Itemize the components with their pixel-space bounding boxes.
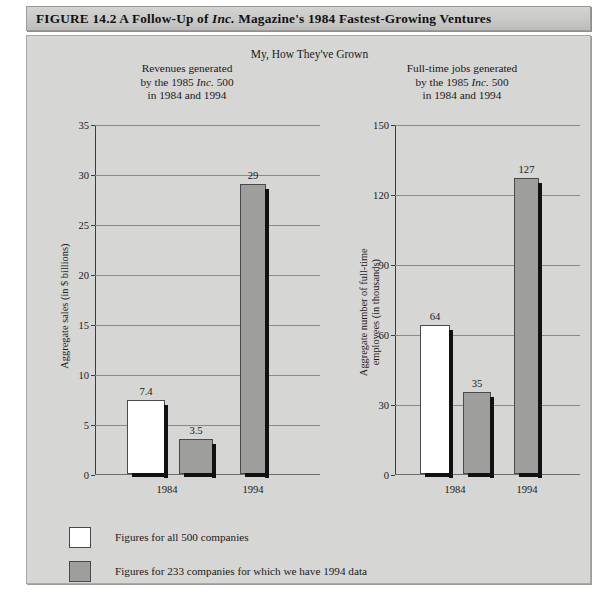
y-tick-label: 0	[84, 470, 89, 481]
chart-revenues-title-line3: in 1984 and 1994	[27, 89, 347, 103]
chart-jobs-y-axis-label: Aggregate number of full-time employees …	[358, 197, 382, 427]
y-tick-label: 30	[378, 400, 389, 411]
chart-jobs-y-axis	[395, 125, 396, 475]
bar-value: 7.4	[139, 386, 152, 397]
bar-1984-233companies: 3.5	[179, 439, 213, 474]
chart-jobs-plot-area: 150 120 90 60 30 0 64 35 127 1984 1994	[395, 125, 580, 475]
bar-value: 29	[248, 170, 259, 181]
gridline: 15	[95, 325, 320, 326]
chart-jobs-title-line2: by the 1985 Inc. 500	[332, 76, 592, 90]
y-tick-label: 15	[78, 320, 89, 331]
y-tick-label: 20	[78, 270, 89, 281]
chart-revenues: Revenues generated by the 1985 Inc. 500 …	[27, 36, 347, 585]
y-tick-label: 0	[384, 470, 389, 481]
chart-jobs-y-axis-label-line2: employees (in thousands)	[370, 197, 382, 427]
legend-label: Figures for all 500 companies	[115, 531, 249, 543]
bar-1994-233companies: 29	[240, 184, 266, 474]
legend-swatch-white	[69, 527, 91, 548]
gridline: 10	[95, 375, 320, 376]
legend-label: Figures for 233 companies for which we h…	[115, 565, 367, 577]
gridline: 35	[95, 125, 320, 126]
gridline: 30	[95, 175, 320, 176]
x-tick-label-1984: 1984	[444, 484, 465, 495]
figure-title: FIGURE 14.2 A Follow-Up of Inc. Magazine…	[27, 11, 491, 27]
chart-jobs-title-line1: Full-time jobs generated	[332, 62, 592, 76]
y-tick-label: 60	[378, 330, 389, 341]
chart-jobs-title: Full-time jobs generated by the 1985 Inc…	[332, 62, 592, 103]
gridline: 20	[95, 275, 320, 276]
chart-jobs-title-line3: in 1984 and 1994	[332, 89, 592, 103]
legend-item: Figures for all 500 companies	[69, 524, 539, 550]
chart-revenues-title: Revenues generated by the 1985 Inc. 500 …	[27, 62, 347, 103]
bar-value: 64	[430, 311, 441, 322]
figure-container: FIGURE 14.2 A Follow-Up of Inc. Magazine…	[0, 0, 611, 599]
y-tick-label: 10	[78, 370, 89, 381]
bar-value: 3.5	[189, 425, 202, 436]
chart-revenues-title-line1: Revenues generated	[27, 62, 347, 76]
x-tick-label-1994: 1994	[516, 484, 537, 495]
gridline: 90	[395, 265, 580, 266]
figure-title-main-b: Magazine's 1984 Fastest-Growing Ventures	[235, 11, 492, 26]
figure-panel: My, How They've Grown Revenues generated…	[26, 35, 591, 584]
chart-jobs: Full-time jobs generated by the 1985 Inc…	[332, 36, 592, 585]
bar-value: 35	[472, 378, 483, 389]
gridline: 25	[95, 225, 320, 226]
figure-title-italic: Inc.	[212, 11, 235, 26]
y-tick-label: 150	[373, 120, 389, 131]
gridline: 120	[395, 195, 580, 196]
y-tick-label: 120	[373, 190, 389, 201]
bar-value: 127	[519, 164, 535, 175]
chart-jobs-y-axis-label-line1: Aggregate number of full-time	[358, 197, 370, 427]
y-tick-label: 30	[78, 170, 89, 181]
bar-1984-233companies: 35	[463, 392, 491, 474]
y-tick-label: 90	[378, 260, 389, 271]
y-tick-label: 5	[84, 420, 89, 431]
chart-revenues-y-axis-label: Aggregate sales (in $ billions)	[59, 206, 71, 406]
figure-legend: Figures for all 500 companies Figures fo…	[69, 524, 539, 592]
y-tick-label: 35	[78, 120, 89, 131]
figure-title-bar: FIGURE 14.2 A Follow-Up of Inc. Magazine…	[26, 6, 591, 31]
bar-1984-all500: 7.4	[127, 400, 165, 474]
x-tick-label-1984: 1984	[156, 484, 177, 495]
chart-revenues-plot-area: 35 30 25 20 15 10 5 0 7.4 3.5 29	[95, 125, 320, 475]
bar-1994-233companies: 127	[514, 178, 539, 474]
figure-title-main-a: A Follow-Up of	[119, 11, 212, 26]
chart-revenues-y-axis	[95, 125, 96, 475]
gridline: 150	[395, 125, 580, 126]
legend-item: Figures for 233 companies for which we h…	[69, 558, 539, 584]
chart-revenues-title-line2: by the 1985 Inc. 500	[27, 76, 347, 90]
x-tick-label-1994: 1994	[242, 484, 263, 495]
bar-1984-all500: 64	[420, 325, 450, 474]
legend-swatch-gray	[69, 561, 91, 582]
y-tick-label: 25	[78, 220, 89, 231]
figure-title-prefix: FIGURE 14.2	[36, 11, 117, 26]
